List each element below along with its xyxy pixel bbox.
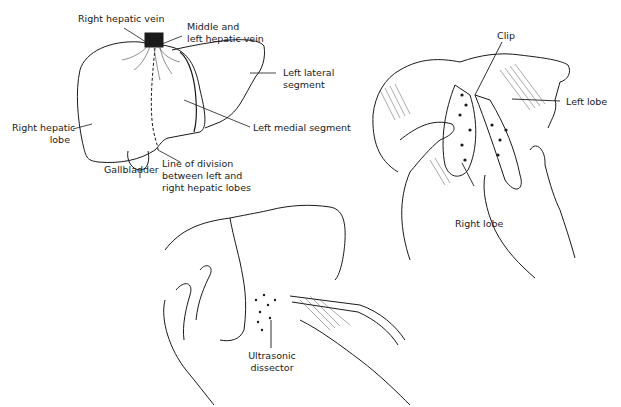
label-ultrasonic-dissector-line2: dissector	[245, 362, 299, 374]
label-ultrasonic-dissector: Ultrasonic dissector	[245, 350, 299, 374]
ultrasonic-dissection-illustration	[0, 0, 621, 407]
anatomical-figure: Right hepatic vein Middle and left hepat…	[0, 0, 621, 407]
label-ultrasonic-dissector-line1: Ultrasonic	[245, 350, 299, 362]
